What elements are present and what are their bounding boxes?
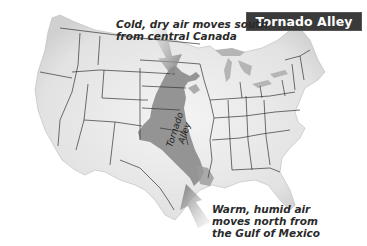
- cold-air-caption: Cold, dry air moves south from central C…: [116, 18, 268, 42]
- warm-air-caption-line3: the Gulf of Mexico: [212, 227, 320, 239]
- tornado-alley-map: Tornado Alley Cold, dry air moves south …: [0, 0, 367, 246]
- warm-air-caption: Warm, humid air moves north from the Gul…: [212, 203, 320, 239]
- warm-air-caption-line1: Warm, humid air: [212, 203, 320, 215]
- cold-air-caption-line2: from central Canada: [116, 30, 268, 42]
- cold-air-caption-line1: Cold, dry air moves south: [116, 18, 268, 30]
- warm-air-caption-line2: moves north from: [212, 215, 320, 227]
